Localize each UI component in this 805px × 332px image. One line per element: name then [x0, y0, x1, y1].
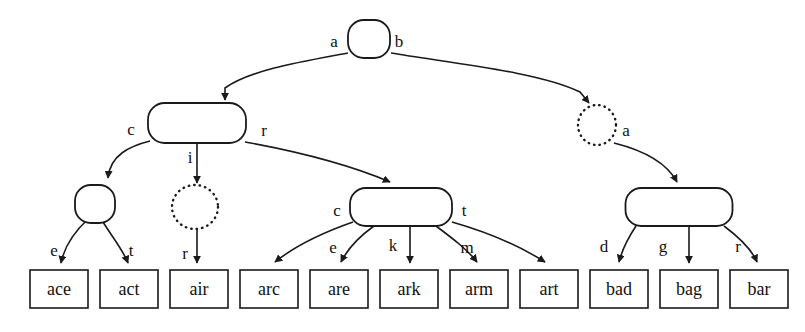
edge-label-14: d [600, 237, 609, 256]
leaf-air: air [170, 270, 228, 308]
edge-label-9: c [333, 201, 341, 220]
diagram-canvas: aceactairarcarearkarmartbadbagbar abcira… [0, 0, 805, 332]
edges-layer [61, 53, 757, 263]
edge-label-15: g [659, 237, 668, 256]
leaf-label: bad [606, 279, 632, 299]
edge-label-12: m [460, 238, 473, 257]
edge-root-to-a [225, 53, 348, 100]
node-n_ar [350, 188, 452, 226]
trie-diagram: aceactairarcarearkarmartbadbagbar abcira… [0, 0, 805, 332]
leaf-bad: bad [590, 270, 648, 308]
edge-label-2: c [127, 120, 135, 139]
edge-b-to-ba [614, 143, 677, 182]
edge-label-11: k [389, 236, 398, 255]
leaf-label: ark [398, 279, 421, 299]
edge-label-6: e [50, 241, 58, 260]
leaf-label: bar [748, 279, 771, 299]
edge-label-13: t [462, 201, 467, 220]
edge-label-4: r [261, 121, 267, 140]
edge-label-3: i [188, 148, 193, 167]
edge-label-1: b [395, 32, 404, 51]
node-root [348, 20, 390, 58]
edge-ar-to-arc [275, 222, 353, 262]
leaf-art: art [520, 270, 578, 308]
edge-label-5: a [622, 121, 630, 140]
leaf-bar: bar [730, 270, 788, 308]
edge-a-to-ac [108, 141, 150, 178]
edge-label-10: e [329, 238, 337, 257]
edge-root-to-b [391, 53, 589, 103]
leaf-label: bag [676, 279, 702, 299]
node-n_ai [172, 185, 218, 229]
edge-ac-to-act [103, 222, 128, 263]
edge-label-16: r [735, 237, 741, 256]
edge-label-8: r [182, 244, 188, 263]
node-n_b [578, 105, 616, 145]
edge-label-7: t [129, 241, 134, 260]
leaf-bag: bag [660, 270, 718, 308]
node-n_a [148, 103, 246, 143]
nodes-layer [75, 20, 733, 229]
leaf-arc: arc [240, 270, 298, 308]
edge-ar-to-are [341, 226, 374, 262]
leaf-label: arc [258, 279, 280, 299]
leaf-label: art [540, 279, 559, 299]
leaf-act: act [100, 270, 158, 308]
leaf-label: ace [47, 279, 71, 299]
leaf-label: act [119, 279, 140, 299]
leaf-are: are [310, 270, 368, 308]
leaf-label: air [190, 279, 209, 299]
edge-labels-layer: abciraetrcekmtdgr [50, 32, 741, 263]
leaf-label: arm [465, 279, 493, 299]
leaf-arm: arm [450, 270, 508, 308]
edge-ac-to-ace [61, 219, 88, 263]
leaf-ark: ark [380, 270, 438, 308]
edge-a-to-ar [245, 142, 390, 182]
edge-ba-to-bad [619, 226, 636, 262]
leaf-label: are [328, 279, 350, 299]
node-n_ac [75, 185, 115, 223]
node-n_ba [626, 188, 733, 226]
leaves-layer: aceactairarcarearkarmartbadbagbar [30, 270, 788, 308]
leaf-ace: ace [30, 270, 88, 308]
edge-label-0: a [330, 32, 338, 51]
